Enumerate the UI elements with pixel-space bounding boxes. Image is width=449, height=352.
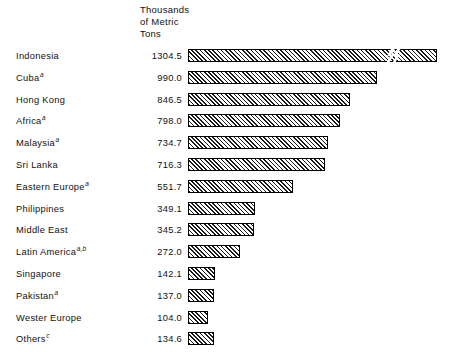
category-label: Pakistana xyxy=(16,290,58,302)
value-label: 846.5 xyxy=(104,94,182,106)
chart-row: Africaa798.0 xyxy=(0,115,449,137)
footnote-marker: a xyxy=(40,71,44,78)
value-label: 137.0 xyxy=(104,290,182,302)
category-label: Wester Europe xyxy=(16,312,82,324)
value-label: 734.7 xyxy=(104,137,182,149)
chart-row: Othersc134.6 xyxy=(0,333,449,352)
bar xyxy=(188,267,215,280)
footnote-marker: a xyxy=(55,289,59,296)
bar xyxy=(188,180,293,193)
category-label: Indonesia xyxy=(16,50,59,62)
value-label: 716.3 xyxy=(104,159,182,171)
bar xyxy=(188,136,328,149)
value-column-header: Thousands of Metric Tons xyxy=(140,4,220,41)
chart-row: Pakistana137.0 xyxy=(0,290,449,312)
category-label: Africaa xyxy=(16,115,46,127)
value-label: 1304.5 xyxy=(104,50,182,62)
bar-chart: Thousands of Metric Tons Indonesia1304.5… xyxy=(0,0,449,352)
bar xyxy=(188,332,214,345)
chart-row: Sri Lanka716.3 xyxy=(0,159,449,181)
category-label: Malaysiaa xyxy=(16,137,59,149)
bar xyxy=(188,311,208,324)
bar xyxy=(188,223,254,236)
chart-row: Indonesia1304.5 xyxy=(0,50,449,72)
value-label: 551.7 xyxy=(104,181,182,193)
chart-row: Wester Europe104.0 xyxy=(0,312,449,334)
chart-row: Middle East345.2 xyxy=(0,224,449,246)
value-label: 990.0 xyxy=(104,72,182,84)
chart-row: Eastern Europea551.7 xyxy=(0,181,449,203)
category-label: Philippines xyxy=(16,203,64,215)
category-label: Singapore xyxy=(16,268,61,280)
category-label: Eastern Europea xyxy=(16,181,89,193)
bar xyxy=(188,49,437,62)
category-label: Cubaa xyxy=(16,72,44,84)
chart-row: Cubaa990.0 xyxy=(0,72,449,94)
bar xyxy=(188,158,325,171)
value-label: 349.1 xyxy=(104,203,182,215)
chart-row: Hong Kong846.5 xyxy=(0,94,449,116)
value-label: 345.2 xyxy=(104,224,182,236)
chart-row: Latin Americaa,b272.0 xyxy=(0,246,449,268)
value-label: 798.0 xyxy=(104,115,182,127)
footnote-marker: a xyxy=(42,114,46,121)
category-label: Sri Lanka xyxy=(16,159,58,171)
bar xyxy=(188,245,240,258)
value-label: 104.0 xyxy=(104,312,182,324)
value-label: 272.0 xyxy=(104,246,182,258)
footnote-marker: a,b xyxy=(77,245,86,252)
bar xyxy=(188,202,255,215)
footnote-marker: a xyxy=(85,180,89,187)
chart-row: Malaysiaa734.7 xyxy=(0,137,449,159)
footnote-marker: a xyxy=(56,136,60,143)
value-label: 142.1 xyxy=(104,268,182,280)
value-label: 134.6 xyxy=(104,333,182,345)
bar xyxy=(188,114,340,127)
category-label: Othersc xyxy=(16,333,50,345)
bar xyxy=(188,289,214,302)
category-label: Latin Americaa,b xyxy=(16,246,86,258)
category-label: Hong Kong xyxy=(16,94,65,106)
chart-row: Philippines349.1 xyxy=(0,203,449,225)
category-label: Middle East xyxy=(16,224,68,236)
footnote-marker: c xyxy=(46,332,49,339)
bar xyxy=(188,71,377,84)
bar xyxy=(188,93,350,106)
chart-row: Singapore142.1 xyxy=(0,268,449,290)
